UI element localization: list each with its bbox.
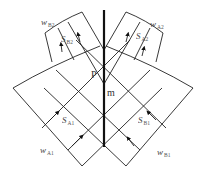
svg-text:SB1: SB1 xyxy=(138,115,150,126)
fan-B1-ray-2 xyxy=(56,70,140,150)
svg-text:SB2: SB2 xyxy=(61,34,73,45)
arrow-wB1-icon xyxy=(128,138,134,146)
svg-text:SA1: SA1 xyxy=(62,115,74,126)
svg-text:wA2: wA2 xyxy=(150,19,164,30)
svg-text:wA1: wA1 xyxy=(40,145,54,156)
svg-text:wB1: wB1 xyxy=(157,147,171,158)
fan-A1 xyxy=(13,40,162,166)
svg-text:m: m xyxy=(107,87,115,98)
svg-text:wB2: wB2 xyxy=(41,17,55,28)
arrow-SA1-icon xyxy=(48,112,58,122)
strip-B2-left-edge xyxy=(45,33,52,62)
arrow-wA1-icon xyxy=(72,136,82,146)
arrow-SA2-b-icon xyxy=(142,48,144,56)
fan-A1-arc xyxy=(13,46,100,88)
svg-text:SA2: SA2 xyxy=(136,31,148,42)
arrow-SA2-a-icon xyxy=(126,34,128,42)
svg-text:P: P xyxy=(91,69,97,80)
